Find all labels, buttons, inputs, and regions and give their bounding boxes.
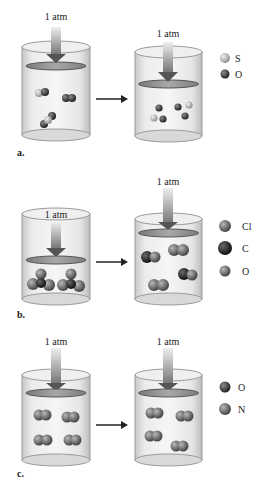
pressure-label: 1 atm [45, 209, 68, 220]
reaction-diagram: 1 atm 1 atm [0, 0, 267, 487]
piston [26, 256, 86, 264]
panel-b: 1 atm 1 atm [17, 176, 252, 320]
cylinder-after: 1 atm [135, 176, 202, 305]
atom-O [183, 411, 194, 422]
piston [139, 229, 199, 237]
cylinder-before: 1 atm [22, 336, 90, 466]
atom-S [185, 101, 192, 108]
legend-swatch-C [218, 241, 232, 255]
pressure-label: 1 atm [45, 11, 68, 22]
pressure-arrow [163, 42, 173, 72]
legend-swatch-Cl [219, 220, 231, 232]
legend-label: O [235, 69, 242, 80]
atom-O [159, 115, 166, 122]
panel-c: 1 atm 1 atm [17, 336, 245, 479]
atom-O [41, 410, 52, 421]
legend-label: C [242, 243, 249, 254]
atom-O [178, 441, 189, 452]
legend-label: O [238, 382, 245, 393]
legend-label: S [235, 53, 241, 64]
pressure-label: 1 atm [157, 28, 180, 39]
atom-O [153, 408, 164, 419]
atom-O [36, 269, 47, 280]
atom-O [174, 103, 181, 110]
reaction-arrow [96, 258, 128, 266]
cylinder-before: 1 atm [22, 208, 90, 305]
piston [26, 389, 86, 397]
atom-C [66, 279, 76, 289]
panel-label: b. [17, 309, 26, 320]
atom-O [68, 94, 76, 102]
atom-N [71, 435, 82, 446]
legend-swatch-S [220, 53, 230, 63]
legend-swatch-N [219, 403, 231, 415]
pressure-label: 1 atm [157, 336, 180, 347]
atom-S [44, 116, 52, 124]
panel-a: 1 atm 1 atm [17, 11, 242, 158]
atom-O [42, 435, 53, 446]
legend: Cl C O [218, 220, 252, 277]
atom-O [181, 112, 188, 119]
atom-Cl [157, 279, 169, 291]
panel-label: c. [17, 468, 24, 479]
reaction-arrow [96, 421, 128, 429]
legend: S O [220, 53, 242, 80]
pressure-arrow [51, 348, 61, 383]
legend-swatch-O [221, 70, 230, 79]
atom-O [155, 104, 162, 111]
pressure-arrow [51, 27, 61, 54]
atom-O [150, 252, 161, 263]
atom-Cl [177, 244, 189, 256]
legend-label: N [238, 404, 245, 415]
cylinder-after: 1 atm [135, 336, 202, 466]
legend-swatch-O [220, 266, 231, 277]
piston [26, 62, 86, 70]
legend-label: O [242, 266, 249, 277]
atom-O [187, 270, 198, 281]
atom-O [41, 88, 49, 96]
pressure-arrow [51, 222, 61, 248]
pressure-arrow [163, 188, 173, 223]
panel-label: a. [17, 147, 25, 158]
cylinder-before: 1 atm [22, 11, 90, 141]
cylinder-after: 1 atm [135, 28, 202, 142]
atom-S [150, 114, 157, 121]
legend-label: Cl [242, 221, 252, 232]
pressure-arrow [163, 348, 173, 383]
atom-O [152, 431, 163, 442]
pressure-label: 1 atm [157, 176, 180, 187]
atom-N [69, 412, 80, 423]
legend-swatch-O [220, 382, 231, 393]
pressure-label: 1 atm [45, 336, 68, 347]
atom-C [36, 278, 46, 288]
atom-O [66, 269, 77, 280]
piston [139, 389, 199, 397]
legend: O N [219, 382, 245, 416]
reaction-arrow [96, 95, 128, 103]
